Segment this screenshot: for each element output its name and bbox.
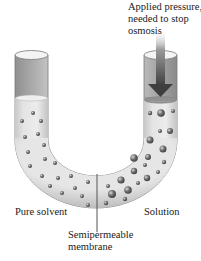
applied-pressure-line-3: osmosis [128,25,201,37]
applied-pressure-line-2: needed to stop [128,13,201,25]
piston [145,97,177,103]
applied-pressure-label: Applied pressure, needed to stop osmosis [128,1,201,37]
solution-label: Solution [144,206,180,218]
semipermeable-membrane-label: Semipermeable membrane [68,229,133,253]
left-tube-opening [15,51,48,60]
applied-pressure-line-1: Applied pressure, [128,1,201,13]
membrane-line-2: membrane [68,241,133,253]
u-tube-illustration [0,0,201,261]
pure-solvent-label: Pure solvent [15,206,67,218]
membrane-line-1: Semipermeable [68,229,133,241]
osmosis-diagram: Applied pressure, needed to stop osmosis… [0,0,201,261]
